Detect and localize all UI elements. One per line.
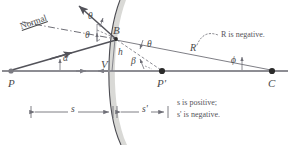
beta-pointer — [140, 59, 144, 69]
angle-label-theta-reflected: θ — [85, 31, 90, 41]
r-negative-leader — [197, 34, 218, 45]
angle-label-theta-incident: θ — [88, 12, 93, 22]
point-label-C: C — [268, 78, 275, 89]
angle-label-h: h — [118, 48, 123, 58]
point-dot-B — [114, 37, 118, 41]
dimension-label-s: s — [68, 105, 78, 115]
optics-ray-diagram: Normal R is negative. s is positive; s' … — [0, 0, 290, 145]
point-label-V: V — [101, 59, 108, 70]
point-dot-C — [269, 68, 275, 74]
s-positive-note: s is positive; — [177, 99, 217, 107]
angle-label-phi: ϕ — [231, 56, 236, 66]
angle-label-R: R — [190, 43, 196, 53]
angle-label-beta: β — [131, 57, 136, 67]
point-label-Pprime: P' — [157, 78, 166, 89]
theta-angle-tick-bottom — [97, 40, 100, 42]
s-negative-note: s' is negative. — [177, 111, 220, 119]
point-dot-Pprime — [159, 68, 165, 74]
point-label-P: P — [8, 78, 15, 89]
point-dot-P — [8, 68, 13, 73]
point-label-B: B — [113, 25, 120, 36]
dimension-label-s-prime: s' — [139, 105, 151, 115]
mirror-shadow — [109, 0, 127, 145]
r-negative-note: R is negative. — [221, 31, 265, 39]
angle-label-theta-axis: θ — [147, 40, 152, 50]
beta-dashed-arc — [145, 66, 152, 69]
angle-label-alpha: α — [63, 54, 68, 64]
incident-ray-arrow — [50, 53, 72, 59]
